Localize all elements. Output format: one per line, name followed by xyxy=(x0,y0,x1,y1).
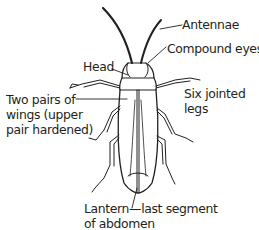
label-legs-line1: Six jointed xyxy=(184,86,245,101)
pronotum-drawing xyxy=(120,78,157,90)
label-lantern-line2: of abdomen xyxy=(84,216,155,230)
label-wings-line1: Two pairs of xyxy=(6,92,75,107)
firefly-diagram: Antennae Compound eyes Head Two pairs of… xyxy=(0,0,259,230)
antennae-drawing xyxy=(103,8,161,63)
label-wings-line2: wings (upper xyxy=(6,107,83,122)
label-legs-line2: legs xyxy=(184,101,208,116)
wings-drawing xyxy=(118,90,158,193)
label-wings-line3: pair hardened) xyxy=(6,122,93,137)
head-drawing xyxy=(122,63,154,78)
lantern-drawing xyxy=(128,173,148,176)
label-lantern-line1: Lantern—last segment xyxy=(84,201,218,216)
label-head: Head xyxy=(83,59,114,74)
label-antennae: Antennae xyxy=(182,17,239,32)
label-compound-eyes: Compound eyes xyxy=(167,41,259,56)
